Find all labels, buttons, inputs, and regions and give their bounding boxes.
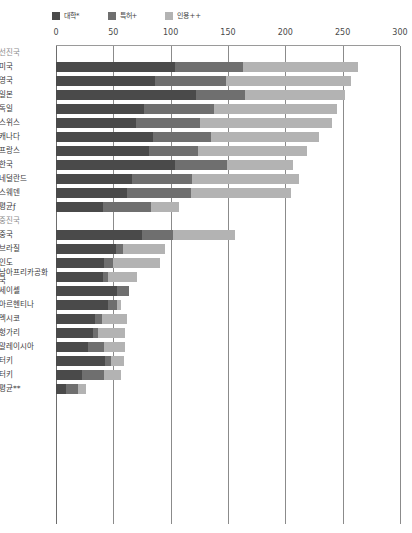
- stacked-bar[interactable]: [56, 118, 332, 128]
- stacked-bar[interactable]: [56, 160, 293, 170]
- bar-segment-인용++: [78, 384, 86, 394]
- plot-area: 선진국미국영국일본독일스위스캐나다프랑스한국네덜란드스웨덴평균ƒ중진국중국브라질…: [56, 46, 400, 524]
- bar-row[interactable]: 터키: [56, 368, 400, 382]
- bar-segment-대학*: [56, 258, 104, 268]
- bar-row[interactable]: 캐나다: [56, 130, 400, 144]
- bar-segment-인용++: [214, 104, 337, 114]
- legend-item-label: 인용++: [177, 12, 201, 20]
- bar-row-label: 미국: [0, 60, 49, 74]
- stacked-bar[interactable]: [56, 356, 124, 366]
- bar-segment-특허+: [95, 314, 102, 324]
- stacked-bar[interactable]: [56, 300, 121, 310]
- bar-segment-인용++: [227, 160, 294, 170]
- stacked-bar[interactable]: [56, 258, 160, 268]
- group-label: 선진국: [0, 46, 49, 60]
- bar-row[interactable]: 미국: [56, 60, 400, 74]
- legend-item-1[interactable]: 대학*: [52, 12, 80, 20]
- stacked-bar[interactable]: [56, 174, 299, 184]
- bar-row-label: 영국: [0, 74, 49, 88]
- bar-row-label: 터키: [0, 368, 49, 382]
- bar-row[interactable]: 헝가리: [56, 326, 400, 340]
- square-swatch-medium: [108, 12, 116, 20]
- bar-segment-인용++: [108, 272, 138, 282]
- bar-segment-특허+: [136, 118, 200, 128]
- bar-row[interactable]: 브라질: [56, 242, 400, 256]
- stacked-bar[interactable]: [56, 384, 86, 394]
- bar-row[interactable]: 중국: [56, 228, 400, 242]
- bar-row-label: 말레이시아: [0, 340, 49, 354]
- bar-segment-특허+: [116, 244, 123, 254]
- bar-row[interactable]: 평균**: [56, 382, 400, 396]
- stacked-bar[interactable]: [56, 132, 319, 142]
- bar-segment-인용++: [245, 90, 345, 100]
- bar-segment-특허+: [144, 104, 214, 114]
- bar-row[interactable]: 아르헨티나: [56, 298, 400, 312]
- stacked-bar[interactable]: [56, 272, 137, 282]
- bar-segment-대학*: [56, 230, 142, 240]
- x-tick-100: 100: [163, 28, 178, 38]
- bar-row[interactable]: 인도: [56, 256, 400, 270]
- stacked-bar[interactable]: [56, 188, 291, 198]
- legend-item-label: 특허+: [120, 12, 138, 20]
- bar-row[interactable]: 터키: [56, 354, 400, 368]
- bar-row-label: 브라질: [0, 242, 49, 256]
- bar-row[interactable]: 일본: [56, 88, 400, 102]
- bar-row[interactable]: 평균ƒ: [56, 200, 400, 214]
- stacked-bar[interactable]: [56, 146, 307, 156]
- bar-segment-인용++: [192, 174, 299, 184]
- bar-row[interactable]: 영국: [56, 74, 400, 88]
- legend-item-2[interactable]: 특허+: [108, 12, 138, 20]
- bar-row[interactable]: 멕시코: [56, 312, 400, 326]
- group-label: 중진국: [0, 214, 49, 228]
- bar-row[interactable]: 네덜란드: [56, 172, 400, 186]
- stacked-bar[interactable]: [56, 230, 235, 240]
- bar-segment-대학*: [56, 90, 196, 100]
- stacked-bar[interactable]: [56, 314, 127, 324]
- bar-row[interactable]: 독일: [56, 102, 400, 116]
- bar-segment-인용++: [198, 146, 307, 156]
- bar-segment-대학*: [56, 132, 153, 142]
- bar-segment-인용++: [102, 314, 127, 324]
- stacked-bar[interactable]: [56, 202, 179, 212]
- stacked-bar[interactable]: [56, 370, 121, 380]
- stacked-bar[interactable]: [56, 76, 351, 86]
- bar-row[interactable]: 프랑스: [56, 144, 400, 158]
- bar-row-label: 캐나다: [0, 130, 49, 144]
- stacked-bar[interactable]: [56, 90, 345, 100]
- bar-segment-특허+: [142, 230, 173, 240]
- bar-row[interactable]: 스위스: [56, 116, 400, 130]
- stacked-bar[interactable]: [56, 342, 125, 352]
- bar-segment-특허+: [104, 258, 113, 268]
- bar-segment-대학*: [56, 244, 116, 254]
- bar-row-label: 평균ƒ: [0, 200, 49, 214]
- bar-segment-인용++: [111, 356, 124, 366]
- bar-segment-특허+: [132, 174, 193, 184]
- bar-row-label: 중국: [0, 228, 49, 242]
- bar-row-label: 스위스: [0, 116, 49, 130]
- stacked-bar[interactable]: [56, 244, 165, 254]
- stacked-bar[interactable]: [56, 286, 129, 296]
- group-header-row: 선진국: [56, 46, 400, 60]
- group-header-row: 중진국: [56, 214, 400, 228]
- bar-row[interactable]: 남아프리카공화국: [56, 270, 400, 284]
- stacked-bar[interactable]: [56, 328, 125, 338]
- stacked-bar[interactable]: [56, 104, 337, 114]
- bar-row[interactable]: 한국: [56, 158, 400, 172]
- bar-segment-특허+: [82, 370, 104, 380]
- bar-segment-대학*: [56, 62, 175, 72]
- stacked-bar[interactable]: [56, 62, 358, 72]
- bar-segment-특허+: [175, 62, 243, 72]
- bar-segment-인용++: [117, 300, 122, 310]
- legend-item-3[interactable]: 인용++: [165, 12, 201, 20]
- bar-row[interactable]: 세이셸: [56, 284, 400, 298]
- bar-segment-대학*: [56, 188, 127, 198]
- bar-segment-특허+: [88, 342, 104, 352]
- bar-segment-대학*: [56, 76, 155, 86]
- bar-row[interactable]: 스웨덴: [56, 186, 400, 200]
- bar-segment-특허+: [127, 188, 191, 198]
- bar-segment-특허+: [103, 202, 151, 212]
- bar-segment-특허+: [66, 384, 77, 394]
- square-swatch-dark: [52, 12, 60, 20]
- bar-segment-인용++: [104, 370, 121, 380]
- bar-row[interactable]: 말레이시아: [56, 340, 400, 354]
